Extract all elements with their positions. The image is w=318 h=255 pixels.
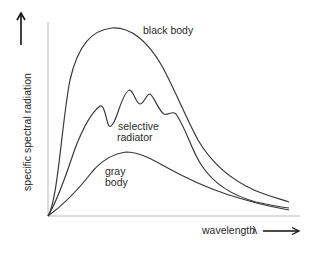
x-direction-arrow-icon [263,228,299,235]
spectral-radiation-diagram [0,0,318,255]
selective-radiator-curve [48,90,289,216]
gray-body-curve [48,152,289,216]
x-axis-label: wavelength [202,225,255,236]
black-body-curve [48,28,289,216]
y-axis-label: specific spectral radiation [21,73,33,191]
selective-radiator-label-line2: radiator [117,132,153,143]
lambda-symbol: λ [252,225,257,236]
gray-body-label-line2: body [105,177,128,188]
black-body-label: black body [143,25,193,36]
y-direction-arrow-icon [17,13,25,45]
